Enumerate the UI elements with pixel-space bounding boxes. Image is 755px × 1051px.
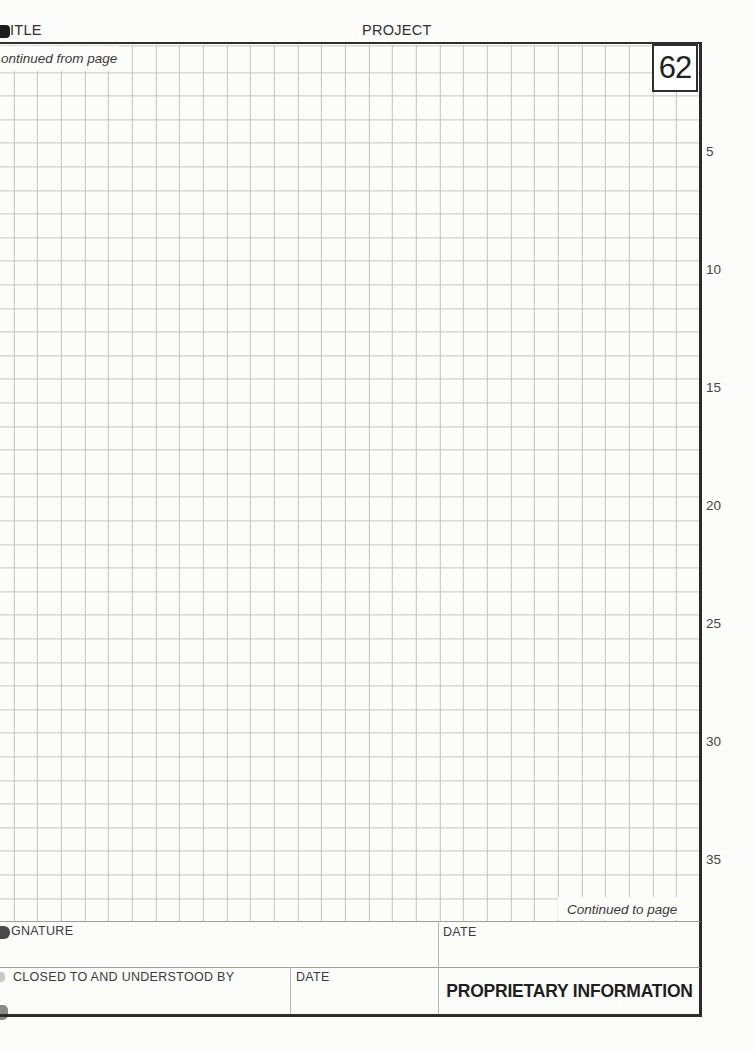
scan-smudge-signature [0, 926, 10, 939]
row-label-5: 5 [706, 145, 714, 159]
proprietary-label: PROPRIETARY INFORMATION [446, 981, 693, 1002]
footer-bottom-rule [0, 1014, 701, 1017]
continued-from-label: ontinued from page [1, 51, 117, 66]
signature-date-label: DATE [443, 925, 477, 939]
scan-smudge-disclosed [0, 972, 5, 982]
notebook-page: ITLE PROJECT ontinued from page Continue… [0, 0, 755, 1051]
row-label-35: 35 [706, 853, 721, 867]
scan-smudge-title [0, 25, 10, 38]
page-number-box: 62 [652, 44, 698, 92]
proprietary-cell: PROPRIETARY INFORMATION [439, 968, 700, 1014]
page-right-border [699, 42, 702, 1017]
header-rule [0, 42, 701, 44]
row-label-10: 10 [706, 263, 721, 277]
row-label-25: 25 [706, 617, 721, 631]
disclosed-label: CLOSED TO AND UNDERSTOOD BY [13, 970, 234, 984]
scan-smudge-bottom [0, 1005, 8, 1020]
continued-to-label: Continued to page [567, 902, 677, 917]
title-label: ITLE [10, 22, 42, 38]
row-label-15: 15 [706, 381, 721, 395]
footer-divider-left [290, 967, 291, 1015]
disclosed-date-label: DATE [296, 970, 330, 984]
graph-grid [0, 45, 700, 921]
signature-label: GNATURE [11, 924, 73, 938]
page-number: 62 [659, 50, 691, 86]
row-label-30: 30 [706, 735, 721, 749]
row-label-20: 20 [706, 499, 721, 513]
signature-row-top-rule [0, 921, 700, 922]
project-label: PROJECT [362, 22, 432, 38]
